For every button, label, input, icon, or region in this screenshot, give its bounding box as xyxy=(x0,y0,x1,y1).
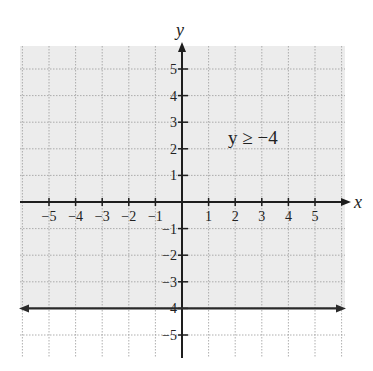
x-tick-label: −3 xyxy=(95,209,110,224)
x-axis-label: x xyxy=(353,192,362,212)
x-tick-label: −5 xyxy=(42,209,57,224)
coordinate-plane: xy−5−4−3−2−11234554321−1−2−3−4−5y ≥ −4 xyxy=(0,0,373,371)
y-tick-label: 1 xyxy=(170,168,177,183)
y-tick-label: −3 xyxy=(162,275,177,290)
x-tick-label: −1 xyxy=(148,209,163,224)
y-tick-label: −1 xyxy=(162,222,177,237)
x-tick-label: 2 xyxy=(232,209,239,224)
x-tick-label: 4 xyxy=(285,209,292,224)
inequality-graph: xy−5−4−3−2−11234554321−1−2−3−4−5y ≥ −4 xyxy=(0,0,373,371)
x-tick-label: 5 xyxy=(312,209,319,224)
y-tick-label: 3 xyxy=(170,115,177,130)
y-axis-label: y xyxy=(174,20,184,40)
y-tick-label: 5 xyxy=(170,62,177,77)
x-tick-label: 3 xyxy=(258,209,265,224)
y-tick-label: −5 xyxy=(162,328,177,343)
inequality-label: y ≥ −4 xyxy=(228,127,278,148)
y-tick-label: 2 xyxy=(170,142,177,157)
x-tick-label: −4 xyxy=(68,209,83,224)
x-tick-label: 1 xyxy=(205,209,212,224)
y-tick-label: −2 xyxy=(162,248,177,263)
x-axis-arrow-icon xyxy=(341,198,351,206)
y-tick-label: 4 xyxy=(170,89,177,104)
x-tick-label: −2 xyxy=(121,209,136,224)
